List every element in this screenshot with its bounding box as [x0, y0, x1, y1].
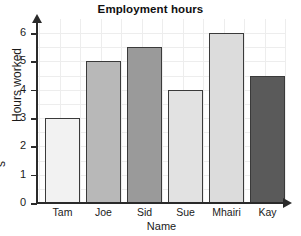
x-axis-line: [36, 202, 285, 204]
bar: [250, 76, 285, 203]
x-axis-title: Name: [37, 220, 286, 232]
gridline-vertical: [203, 19, 204, 203]
gridline-vertical: [39, 19, 40, 203]
gridline-vertical: [285, 19, 286, 203]
bar: [209, 33, 244, 203]
gridline-vertical: [80, 19, 81, 203]
gridline-vertical: [244, 19, 245, 203]
y-axis-tick-mark: [31, 203, 37, 205]
bar: [127, 47, 162, 203]
y-axis-tick-mark: [31, 146, 37, 148]
y-axis-tick-mark: [31, 61, 37, 63]
bar-chart: Employment hours 0123456 TamJoeSidSueMha…: [0, 0, 301, 236]
x-axis-tick-label: Kay: [242, 206, 293, 218]
y-axis-tick-mark: [31, 118, 37, 120]
chart-title: Employment hours: [0, 3, 301, 15]
bar: [86, 61, 121, 203]
bar: [45, 118, 80, 203]
y-axis-title: Hours worked: [10, 20, 24, 150]
y-axis-tick-mark: [31, 175, 37, 177]
bar: [168, 90, 203, 203]
y-axis-line: [36, 22, 38, 204]
y-axis-tick-label: 1: [4, 168, 26, 180]
cropped-edge-text: s: [0, 161, 8, 167]
y-axis-tick-mark: [31, 33, 37, 35]
gridline-vertical: [162, 19, 163, 203]
gridline-vertical: [121, 19, 122, 203]
y-axis-arrow-icon: [32, 14, 42, 23]
y-axis-tick-mark: [31, 90, 37, 92]
plot-area: [37, 19, 286, 203]
y-axis-tick-label: 0: [4, 196, 26, 208]
